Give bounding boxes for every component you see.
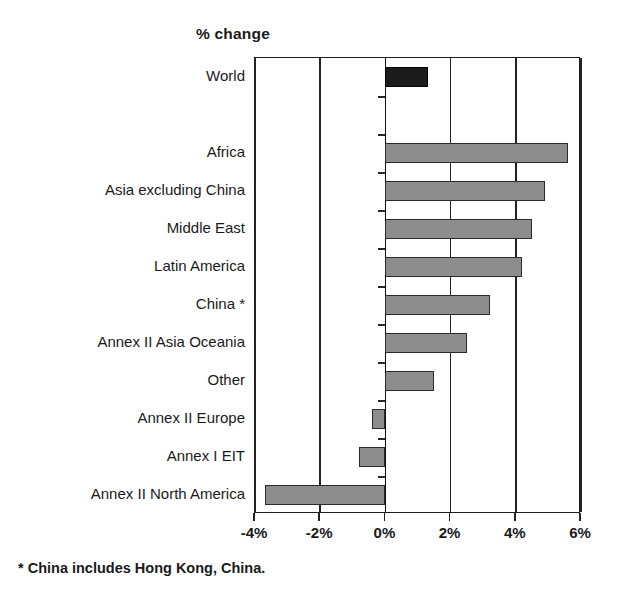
y-tick-mark: [378, 438, 385, 440]
category-label-middle-east: Middle East: [8, 209, 254, 247]
y-tick-mark: [378, 248, 385, 250]
category-label-column: WorldAfricaAsia excluding ChinaMiddle Ea…: [0, 57, 254, 513]
category-label-africa: Africa: [8, 133, 254, 171]
category-label-annex-ii-asia-oceania: Annex II Asia Oceania: [8, 323, 254, 361]
x-axis-label: 4%: [504, 524, 526, 541]
bar[interactable]: [385, 67, 427, 87]
bar-row: [255, 248, 579, 286]
bar-row: [255, 134, 579, 172]
category-label-china: China *: [8, 285, 254, 323]
x-tick-mark: [318, 513, 320, 521]
category-label-annex-ii-north-america: Annex II North America: [8, 475, 254, 513]
bar[interactable]: [372, 409, 385, 429]
y-tick-mark: [378, 400, 385, 402]
bar[interactable]: [385, 257, 522, 277]
x-axis: -4%-2%0%2%4%6%: [254, 513, 580, 553]
bar[interactable]: [385, 143, 568, 163]
y-tick-mark: [378, 210, 385, 212]
y-tick-mark: [378, 324, 385, 326]
y-tick-mark: [378, 172, 385, 174]
bar[interactable]: [385, 295, 489, 315]
bar-row: [255, 362, 579, 400]
y-tick-mark: [378, 134, 385, 136]
category-label-other: Other: [8, 361, 254, 399]
bar-row: [255, 96, 579, 134]
bar[interactable]: [385, 333, 467, 353]
category-label-latin-america: Latin America: [8, 247, 254, 285]
bar-row: [255, 58, 579, 96]
x-tick-mark: [253, 513, 255, 521]
chart-plot-area: [254, 57, 580, 513]
x-axis-label: 0%: [374, 524, 396, 541]
bar-row: [255, 286, 579, 324]
axis-title: % change: [196, 25, 270, 43]
x-axis-label: -4%: [241, 524, 268, 541]
bar-row: [255, 172, 579, 210]
y-tick-mark: [378, 286, 385, 288]
category-label-annex-i-eit: Annex I EIT: [8, 437, 254, 475]
category-label-asia-excluding-china: Asia excluding China: [8, 171, 254, 209]
x-tick-mark: [579, 513, 581, 521]
bar-row: [255, 476, 579, 514]
x-axis-label: -2%: [306, 524, 333, 541]
gridline-6pct: [580, 58, 582, 512]
bar[interactable]: [359, 447, 385, 467]
x-axis-label: 2%: [439, 524, 461, 541]
x-axis-label: 6%: [569, 524, 591, 541]
x-tick-mark: [384, 513, 386, 521]
x-tick-mark: [449, 513, 451, 521]
y-tick-mark: [378, 96, 385, 98]
bar-row: [255, 210, 579, 248]
y-tick-mark: [378, 476, 385, 478]
category-label-annex-ii-europe: Annex II Europe: [8, 399, 254, 437]
bar[interactable]: [385, 371, 434, 391]
bar-row: [255, 438, 579, 476]
category-label-blank: [8, 95, 254, 133]
bar[interactable]: [385, 181, 545, 201]
bar[interactable]: [265, 485, 386, 505]
bar[interactable]: [385, 219, 532, 239]
bar-row: [255, 400, 579, 438]
category-label-world: World: [8, 57, 254, 95]
x-tick-mark: [514, 513, 516, 521]
y-tick-mark: [378, 362, 385, 364]
bar-row: [255, 324, 579, 362]
footnote: * China includes Hong Kong, China.: [18, 560, 265, 576]
